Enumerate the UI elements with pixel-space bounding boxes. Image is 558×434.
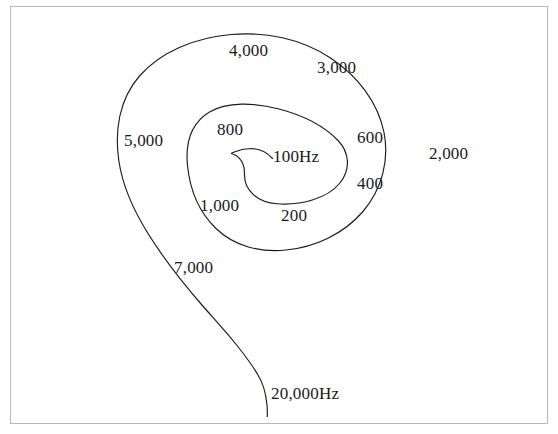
frequency-label-3000: 3,000 xyxy=(317,59,356,76)
frequency-label-4000: 4,000 xyxy=(229,42,268,59)
frequency-label-5000: 5,000 xyxy=(124,132,163,149)
frequency-label-20000hz: 20,000Hz xyxy=(271,385,339,402)
frequency-label-100hz: 100Hz xyxy=(273,148,319,165)
cochlea-frequency-diagram: 100Hz 200 400 600 800 1,000 2,000 3,000 … xyxy=(0,0,558,434)
frequency-label-2000: 2,000 xyxy=(429,145,468,162)
frequency-label-600: 600 xyxy=(357,129,383,146)
frequency-label-800: 800 xyxy=(217,121,243,138)
frequency-label-400: 400 xyxy=(357,175,383,192)
cochlear-spiral-path xyxy=(117,34,385,417)
frequency-label-200: 200 xyxy=(281,207,307,224)
cochlear-spiral-graphic xyxy=(0,0,558,434)
frequency-label-1000: 1,000 xyxy=(200,197,239,214)
frequency-label-7000: 7,000 xyxy=(174,259,213,276)
